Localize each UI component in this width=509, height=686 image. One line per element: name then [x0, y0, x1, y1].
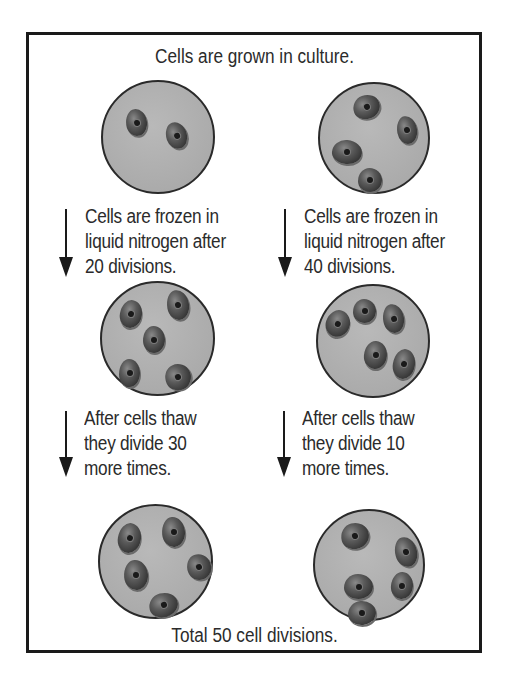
- cell-icon: [116, 521, 144, 555]
- cell-icon: [395, 114, 420, 145]
- cell-icon: [381, 302, 407, 334]
- cell-icon: [338, 520, 372, 552]
- cell-icon: [353, 299, 376, 323]
- left-step2-line2: they divide 30: [84, 432, 187, 455]
- cell-icon: [162, 119, 190, 151]
- petri-dish-icon: [316, 284, 430, 398]
- down-arrow-icon: [278, 209, 292, 277]
- right-step1-line1: Cells are frozen in: [304, 205, 438, 228]
- right-step2-line1: After cells thaw: [302, 407, 414, 430]
- petri-dish-icon: [318, 82, 430, 194]
- petri-dish-icon: [98, 504, 213, 619]
- cell-icon: [161, 516, 187, 548]
- cell-icon: [143, 326, 165, 353]
- cell-icon: [358, 168, 382, 192]
- down-arrow-icon: [59, 209, 73, 277]
- cell-icon: [391, 347, 418, 380]
- left-step1-line2: liquid nitrogen after: [85, 230, 226, 253]
- left-step1-line1: Cells are frozen in: [85, 205, 219, 228]
- cell-icon: [118, 298, 145, 329]
- cell-icon: [390, 571, 414, 600]
- left-step2-line3: more times.: [84, 457, 171, 480]
- right-step1-line3: 40 divisions.: [304, 255, 395, 278]
- left-step2-line1: After cells thaw: [84, 407, 196, 430]
- down-arrow-icon: [277, 411, 291, 477]
- down-arrow-icon: [59, 411, 73, 477]
- cell-icon: [119, 359, 140, 387]
- petri-dish-icon: [313, 509, 425, 621]
- right-step1-line2: liquid nitrogen after: [304, 230, 445, 253]
- cell-icon: [391, 535, 420, 570]
- cell-icon: [363, 340, 388, 370]
- right-step2-line3: more times.: [302, 457, 389, 480]
- cell-icon: [350, 91, 384, 123]
- diagram-footer: Total 50 cell divisions.: [36, 624, 474, 647]
- right-step2-line2: they divide 10: [302, 432, 405, 455]
- cell-icon: [344, 574, 373, 599]
- diagram-title: Cells are grown in culture.: [36, 45, 474, 68]
- cell-icon: [165, 288, 192, 321]
- petri-dish-icon: [100, 281, 215, 396]
- cell-icon: [331, 139, 363, 166]
- cell-icon: [183, 551, 214, 584]
- cell-icon: [124, 108, 149, 138]
- petri-dish-icon: [101, 80, 215, 194]
- cell-icon: [123, 559, 150, 591]
- left-step1-line3: 20 divisions.: [85, 255, 176, 278]
- cell-icon: [322, 307, 354, 341]
